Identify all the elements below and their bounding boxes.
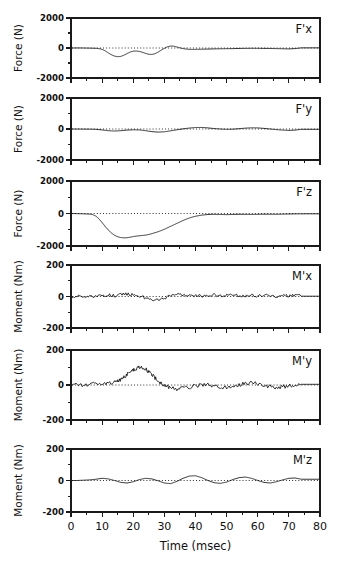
panel-mx: 2000-200M'x xyxy=(42,260,320,333)
data-trace-mz xyxy=(71,476,319,484)
y-tick-label: -200 xyxy=(42,507,64,517)
y-tick-label: 0 xyxy=(58,124,64,134)
x-tick-label: 70 xyxy=(282,520,296,533)
y-axis-title-force: Force (N) xyxy=(12,24,24,72)
y-tick-label: -2000 xyxy=(37,155,65,165)
x-tick-label: 30 xyxy=(157,520,171,533)
panel-fz: 20000-2000F'z xyxy=(37,176,321,251)
y-tick-label: 200 xyxy=(46,345,64,355)
data-trace-fz xyxy=(71,214,319,238)
y-axis-title-force: Force (N) xyxy=(12,105,24,153)
x-axis-title: Time (msec) xyxy=(159,539,231,553)
panel-label: F'y xyxy=(295,102,312,116)
y-tick-label: 200 xyxy=(46,444,64,454)
panel-fy: 20000-2000F'y xyxy=(37,93,321,165)
y-axis-title-moment: Moment (Nm) xyxy=(12,260,24,333)
panel-frame xyxy=(71,449,320,512)
y-axis-title-force: Force (N) xyxy=(12,190,24,238)
panel-label: F'x xyxy=(295,22,312,36)
y-tick-label: 0 xyxy=(58,476,64,486)
y-axis-title-moment: Moment (Nm) xyxy=(12,444,24,517)
x-tick-label: 40 xyxy=(189,520,203,533)
y-tick-label: -200 xyxy=(42,323,64,333)
y-tick-label: 200 xyxy=(46,260,64,270)
figure-canvas: 20000-2000F'x20000-2000F'y20000-2000F'z2… xyxy=(0,0,340,586)
panel-frame xyxy=(71,18,320,78)
panel-my: 2000-200M'y xyxy=(42,345,320,425)
y-tick-label: 0 xyxy=(58,43,64,53)
y-tick-label: -2000 xyxy=(37,241,65,251)
panel-mz: 2000-200M'z xyxy=(42,444,320,517)
data-trace-fx xyxy=(71,46,319,57)
y-axis-title-moment: Moment (Nm) xyxy=(12,349,24,422)
y-tick-label: -200 xyxy=(42,415,64,425)
panel-fx: 20000-2000F'x xyxy=(37,13,321,83)
y-tick-label: 0 xyxy=(58,292,64,302)
x-tick-label: 0 xyxy=(68,520,75,533)
y-tick-label: 2000 xyxy=(40,176,64,186)
x-tick-label: 50 xyxy=(220,520,234,533)
y-tick-label: -2000 xyxy=(37,73,65,83)
panel-label: F'z xyxy=(296,185,312,199)
data-trace-fy xyxy=(71,127,319,132)
panel-frame xyxy=(71,98,320,160)
data-trace-my xyxy=(71,366,319,391)
panel-label: M'z xyxy=(293,453,312,467)
y-tick-label: 0 xyxy=(58,380,64,390)
panel-label: M'y xyxy=(292,354,312,368)
y-tick-label: 2000 xyxy=(40,93,64,103)
data-trace-mx xyxy=(71,293,319,301)
x-tick-label: 10 xyxy=(95,520,109,533)
x-tick-label: 60 xyxy=(251,520,265,533)
x-tick-label: 20 xyxy=(126,520,140,533)
panel-frame xyxy=(71,181,320,246)
panel-label: M'x xyxy=(292,269,312,283)
y-tick-label: 0 xyxy=(58,209,64,219)
panel-frame xyxy=(71,265,320,328)
x-tick-label: 80 xyxy=(313,520,327,533)
y-tick-label: 2000 xyxy=(40,13,64,23)
force-moment-time-series-figure: 20000-2000F'x20000-2000F'y20000-2000F'z2… xyxy=(0,0,340,586)
